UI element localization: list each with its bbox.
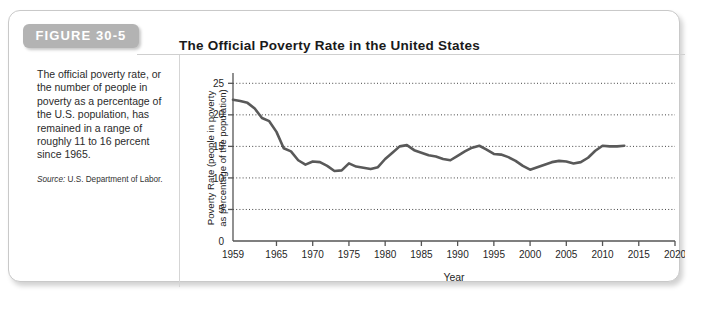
title-divider	[137, 54, 685, 55]
figure-card: FIGURE 30-5 The Official Poverty Rate in…	[8, 10, 680, 282]
x-axis: 1959196519701975198019851990199520002005…	[222, 241, 685, 260]
y-tick-label-15: 15	[213, 141, 225, 152]
x-tick-label-1975: 1975	[338, 249, 361, 260]
y-tick-label-20: 20	[213, 109, 225, 120]
figure-number-chip: FIGURE 30-5	[23, 24, 139, 48]
x-tick-label-1959: 1959	[222, 249, 245, 260]
x-axis-title: Year	[443, 271, 465, 283]
x-tick-label-2015: 2015	[628, 249, 651, 260]
caption-source: Source: U.S. Department of Labor.	[37, 174, 173, 185]
y-tick-label-25: 25	[213, 78, 225, 89]
x-tick-label-1985: 1985	[410, 249, 433, 260]
x-tick-label-1995: 1995	[483, 249, 506, 260]
figure-title: The Official Poverty Rate in the United …	[179, 38, 659, 53]
series-line-official-poverty-rate	[233, 100, 624, 171]
x-tick-label-1965: 1965	[265, 249, 288, 260]
x-tick-label-1970: 1970	[302, 249, 325, 260]
poverty-rate-line-chart: 0510152025 19591965197019751980198519901…	[185, 61, 685, 287]
chart-area: Poverty Rate (people in poverty as perce…	[185, 61, 685, 287]
source-label: Source:	[37, 175, 65, 184]
x-tick-label-2010: 2010	[591, 249, 614, 260]
x-tick-label-2000: 2000	[519, 249, 542, 260]
y-tick-label-10: 10	[213, 173, 225, 184]
y-tick-label-0: 0	[218, 236, 224, 247]
y-tick-label-5: 5	[218, 204, 224, 215]
caption-text: The official poverty rate, or the number…	[37, 68, 173, 162]
y-axis: 0510152025	[213, 73, 233, 247]
source-text: U.S. Department of Labor.	[65, 175, 162, 184]
x-tick-label-1980: 1980	[374, 249, 397, 260]
x-tick-label-1990: 1990	[446, 249, 469, 260]
caption-block: The official poverty rate, or the number…	[37, 68, 173, 185]
x-tick-label-2005: 2005	[555, 249, 578, 260]
figure-root: FIGURE 30-5 The Official Poverty Rate in…	[0, 0, 707, 315]
caption-divider	[179, 55, 180, 287]
x-tick-label-2020: 2020	[664, 249, 685, 260]
data-line-0	[233, 100, 624, 171]
